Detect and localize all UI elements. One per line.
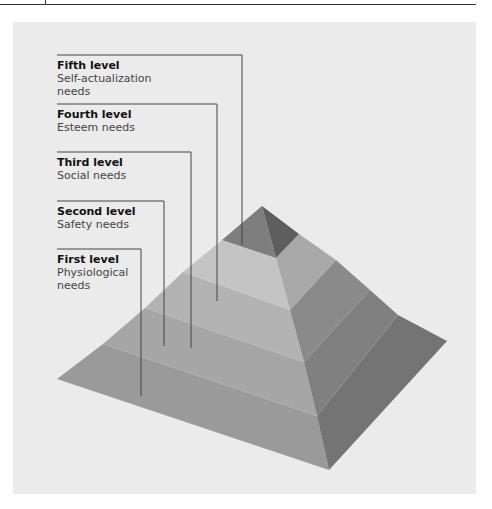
label-description: Social needs: [57, 169, 126, 182]
label-second-level: Second level Safety needs: [57, 205, 136, 231]
label-title: Fourth level: [57, 108, 135, 121]
label-title: Second level: [57, 205, 136, 218]
label-title: First level: [57, 253, 128, 266]
label-description: Esteem needs: [57, 121, 135, 134]
label-first-level: First level Physiological needs: [57, 253, 128, 292]
label-fourth-level: Fourth level Esteem needs: [57, 108, 135, 134]
label-third-level: Third level Social needs: [57, 156, 126, 182]
label-title: Fifth level: [57, 59, 152, 72]
label-title: Third level: [57, 156, 126, 169]
label-description: Physiological needs: [57, 266, 128, 292]
label-fifth-level: Fifth level Self-actualization needs: [57, 59, 152, 98]
label-description: Self-actualization needs: [57, 72, 152, 98]
label-description: Safety needs: [57, 218, 136, 231]
